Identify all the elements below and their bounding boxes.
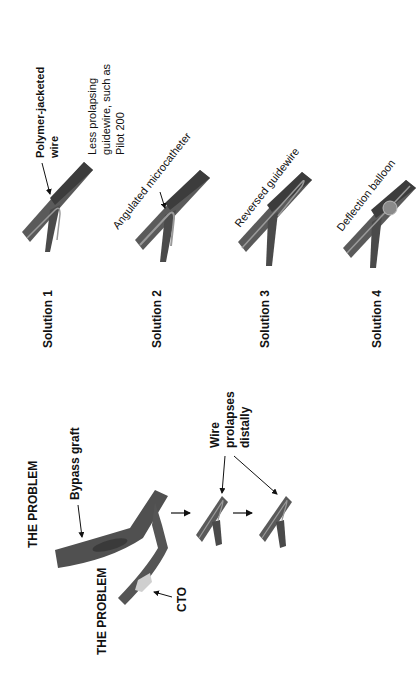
problem-title-top: THE PROBLEM	[26, 461, 40, 548]
solution-1-vessel	[22, 162, 93, 252]
deflection-balloon	[383, 201, 397, 215]
cto-label: CTO	[175, 587, 189, 612]
wire-label-line2: prolapses	[223, 391, 237, 448]
prolapse-vessel-2	[259, 496, 292, 548]
annotation-polymer-line1: Polymer-jacketed	[34, 67, 46, 158]
diagram: Polymer-jacketed wire Less prolapsing gu…	[0, 0, 418, 697]
annotation-deflection: Deflection balloon	[334, 157, 397, 233]
annotation-less-line3: Pilot 200	[114, 112, 126, 155]
wire-label-line1: Wire	[208, 422, 222, 448]
solution-3-label: Solution 3	[258, 290, 272, 348]
solution-1-label: Solution 1	[41, 290, 55, 348]
wire-label-line3: distally	[238, 406, 252, 448]
arrow-wire-1	[222, 456, 225, 493]
solution-4-label: Solution 4	[370, 290, 384, 348]
annotation-polymer-line2: wire	[48, 136, 60, 159]
arrow-microcatheter	[160, 192, 165, 208]
arrow-polymer-wire	[42, 163, 50, 194]
solution-4-vessel	[343, 180, 416, 268]
prolapse-vessel-1	[196, 496, 228, 546]
annotation-less-line2: guidewire, such as	[100, 63, 112, 155]
problem-title-bottom: THE PROBLEM	[95, 568, 109, 655]
arrow-bypass	[78, 505, 82, 537]
arrow-cto	[154, 592, 172, 597]
arrow-wire-2	[234, 456, 277, 494]
solution-2-label: Solution 2	[150, 290, 164, 348]
bypass-graft-vessel	[55, 490, 168, 568]
bypass-graft-label: Bypass graft	[68, 427, 82, 500]
annotation-less-line1: Less prolapsing	[86, 78, 98, 155]
